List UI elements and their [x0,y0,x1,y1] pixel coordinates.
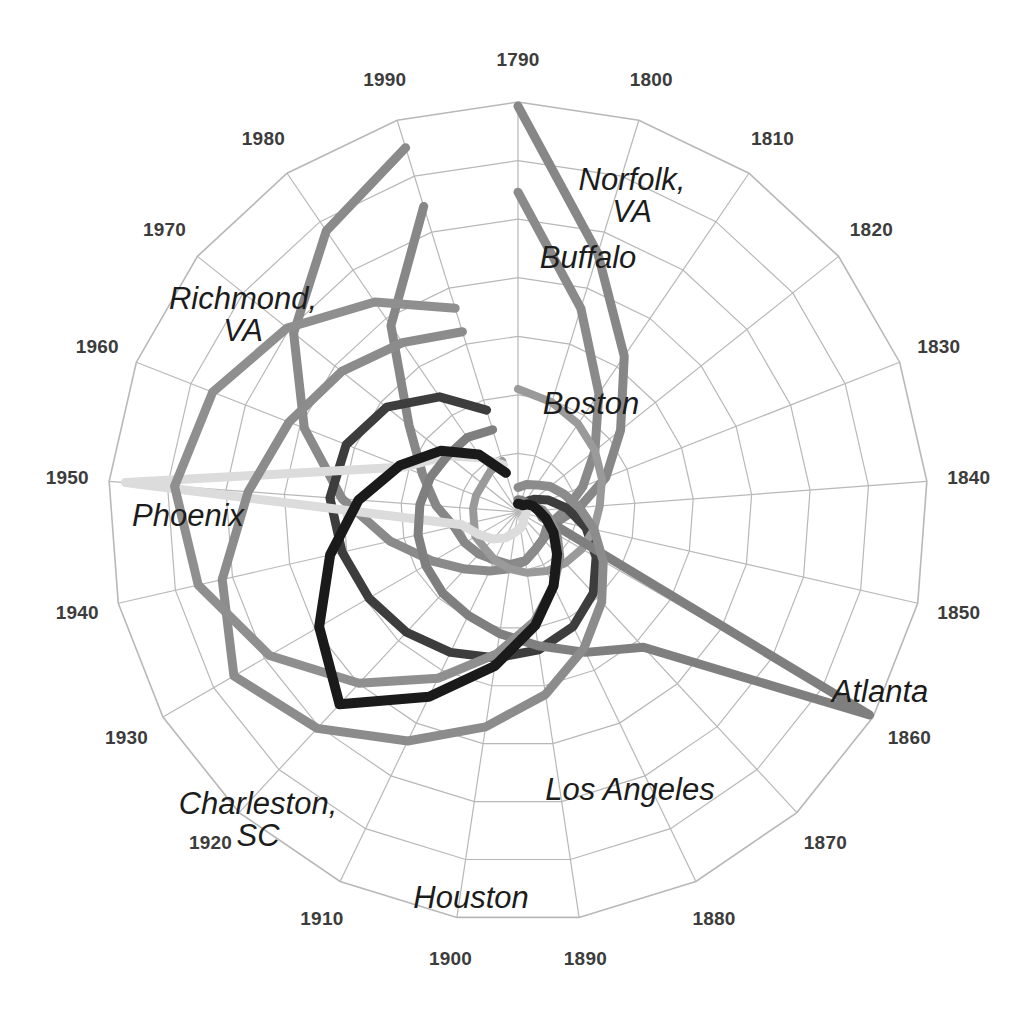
series-annotation: Richmond, VA [169,283,317,347]
series-annotation: Los Angeles [545,774,714,806]
angular-tick-label: 1820 [850,219,893,241]
angular-tick-label: 1900 [429,948,472,970]
angular-tick-label: 1790 [496,49,539,71]
angular-tick-label: 1800 [630,69,673,91]
angular-tick-label: 1960 [76,336,119,358]
angular-tick-label: 1830 [917,336,960,358]
series-annotation: Phoenix [132,500,244,532]
angular-tick-label: 1940 [56,602,99,624]
angular-tick-label: 1950 [46,467,89,489]
series-annotation: Norfolk, VA [579,164,686,228]
angular-tick-label: 1970 [143,219,186,241]
angular-tick-label: 1980 [242,128,285,150]
angular-tick-label: 1870 [804,832,847,854]
angular-tick-label: 1840 [947,467,990,489]
series-annotation: Houston [413,882,528,914]
angular-tick-label: 1890 [564,948,607,970]
polar-chart-figure: 1790180018101820183018401850186018701880… [0,0,1027,1033]
angular-tick-label: 1880 [693,908,736,930]
angular-tick-label: 1850 [937,602,980,624]
angular-tick-label: 1810 [751,128,794,150]
series-annotation: Charleston, SC [179,788,338,852]
series-annotation: Buffalo [540,242,637,274]
grid-spoke [518,256,839,512]
angular-tick-label: 1990 [363,69,406,91]
angular-tick-label: 1860 [888,727,931,749]
angular-tick-label: 1910 [300,908,343,930]
series-annotation: Boston [543,388,640,420]
series-annotation: Atlanta [832,676,929,708]
angular-tick-label: 1930 [105,727,148,749]
